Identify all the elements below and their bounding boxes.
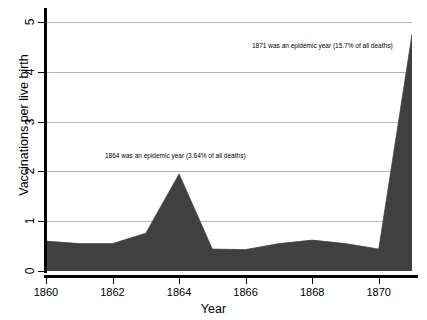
y-tick-5	[38, 22, 45, 23]
plot-area	[46, 22, 412, 271]
x-tick-1868	[312, 278, 313, 284]
x-tick-1866	[246, 278, 247, 284]
y-tick-3	[38, 122, 45, 123]
series-clip	[46, 22, 412, 271]
x-tick-1870	[379, 278, 380, 284]
area-series-vaccinations	[46, 22, 412, 271]
x-tick-label-1870: 1870	[359, 286, 399, 298]
y-axis-line	[44, 8, 47, 273]
x-tick-label-1868: 1868	[292, 286, 332, 298]
x-tick-label-1866: 1866	[226, 286, 266, 298]
x-axis-title: Year	[0, 302, 427, 316]
y-axis-title: Vaccinations per live birth	[17, 25, 31, 225]
y-tick-4	[38, 72, 45, 73]
x-tick-label-1860: 1860	[26, 286, 66, 298]
x-tick-label-1864: 1864	[159, 286, 199, 298]
x-tick-1864	[179, 278, 180, 284]
y-tick-1	[38, 221, 45, 222]
annotation-epidemic-1864: 1864 was an epidemic year (3.64% of all …	[105, 152, 246, 160]
x-tick-label-1862: 1862	[93, 286, 133, 298]
x-axis-line	[44, 275, 418, 278]
x-tick-1860	[46, 278, 47, 284]
x-tick-1862	[113, 278, 114, 284]
y-tick-2	[38, 171, 45, 172]
vaccination-area-chart: 012345 186018621864186618681870 Vaccinat…	[0, 0, 427, 320]
y-tick-0	[38, 271, 45, 272]
y-tick-label-0: 0	[12, 265, 34, 277]
annotation-epidemic-1871: 1871 was an epidemic year (15.7% of all …	[252, 42, 393, 50]
